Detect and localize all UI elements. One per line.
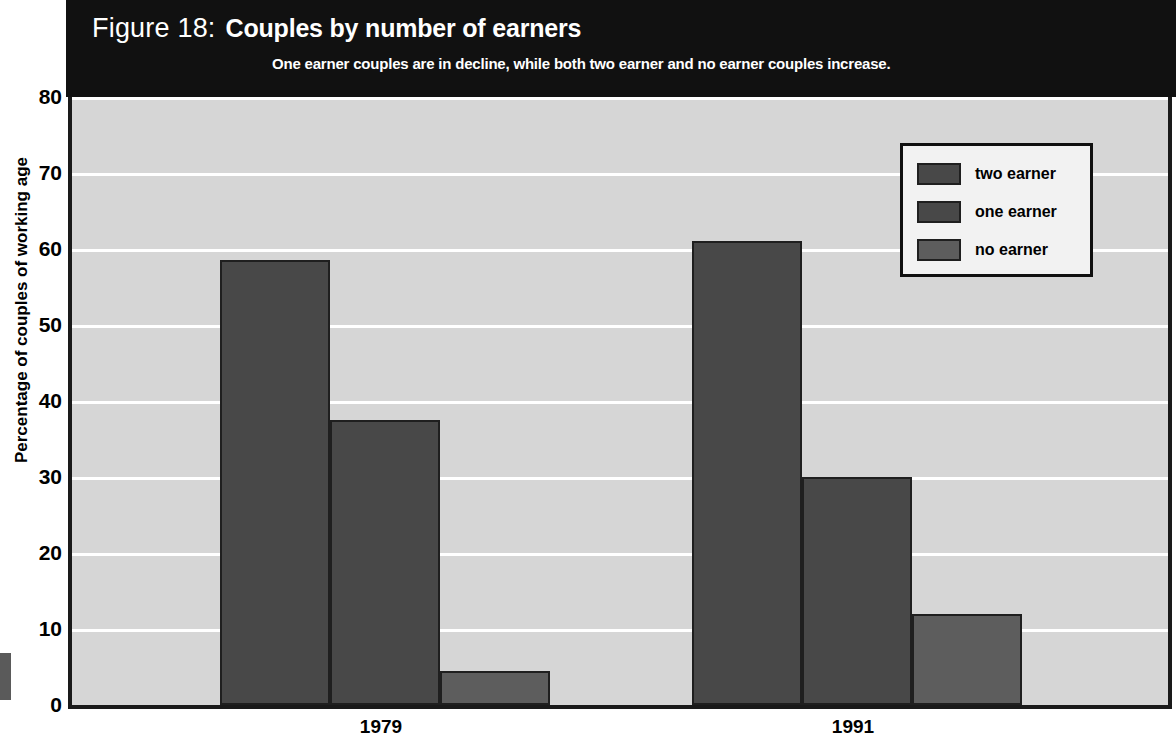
plot-right-border [1168, 97, 1172, 709]
legend-item-one-earner[interactable]: one earner [917, 197, 1057, 227]
y-tick-label-0: 0 [6, 693, 62, 717]
legend-label: two earner [975, 165, 1056, 183]
figure-title-text: Couples by number of earners [226, 14, 582, 42]
bar-1979-no-earner [440, 671, 550, 705]
x-tick-label-1979: 1979 [301, 716, 461, 738]
legend-item-two-earner[interactable]: two earner [917, 159, 1056, 189]
bar-1991-two-earner [692, 241, 802, 705]
legend-swatch-icon [917, 239, 961, 261]
y-tick-label-20: 20 [6, 541, 62, 565]
figure-title-line: Figure 18:Couples by number of earners [92, 13, 581, 44]
y-axis-title: Percentage of couples of working age [12, 100, 32, 520]
x-tick-label-1991: 1991 [773, 716, 933, 738]
page-edge-marker [0, 653, 11, 700]
bar-1991-no-earner [912, 614, 1022, 705]
y-tick-label-10: 10 [6, 617, 62, 641]
figure-subtitle-text: One earner couples are in decline, while… [272, 55, 890, 72]
bar-1991-one-earner [802, 477, 912, 705]
legend-item-no-earner[interactable]: no earner [917, 235, 1048, 265]
legend-label: one earner [975, 203, 1057, 221]
legend-swatch-icon [917, 163, 961, 185]
bar-1979-one-earner [330, 420, 440, 705]
figure-title-band: Figure 18:Couples by number of earners O… [66, 0, 1176, 97]
legend-swatch-icon [917, 201, 961, 223]
bar-1979-two-earner [220, 260, 330, 705]
figure-number-label: Figure 18: [92, 13, 216, 43]
legend-label: no earner [975, 241, 1048, 259]
chart-legend: two earnerone earnerno earner [900, 143, 1093, 277]
gridline [72, 97, 1172, 100]
